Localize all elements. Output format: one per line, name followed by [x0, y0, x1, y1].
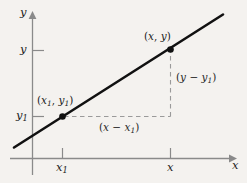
y-axis — [29, 11, 37, 175]
diagram-canvas — [0, 0, 247, 183]
y-tick-label-y-main: y — [20, 42, 27, 56]
y-tick-label-y1-sub: 1 — [23, 113, 28, 123]
paren-close: ) — [167, 30, 171, 42]
y-tick-label-y: y — [20, 44, 27, 56]
paren-close: ) — [135, 121, 139, 133]
y-axis-arrowhead — [29, 11, 37, 19]
x-tick-label-x-main: x — [167, 160, 174, 174]
x-tick-label-x1: x1 — [56, 162, 68, 174]
x-axis — [10, 155, 237, 163]
x-tick-marks — [63, 148, 171, 159]
point-label-x1-y1: (x1, y1) — [37, 95, 73, 107]
y-axis-label: y — [20, 7, 27, 19]
x-tick-label-x: x — [167, 162, 174, 174]
point-label-comma: , — [154, 30, 161, 42]
run-operator: − — [109, 121, 124, 133]
point-label-x-y: (x, y) — [144, 31, 171, 42]
point-marker-x-y — [167, 46, 174, 53]
segment-label-run: (x − x1) — [99, 122, 139, 134]
line-slope-diagram: y x y y1 x1 x (x1, y1) (x, y) (y − y1) (… — [0, 0, 247, 183]
y-tick-label-y1: y1 — [16, 110, 28, 122]
point-marker-x1-y1 — [59, 113, 66, 120]
paren-close: ) — [212, 71, 216, 83]
segment-label-rise: (y − y1) — [176, 72, 216, 84]
x-tick-label-x1-sub: 1 — [63, 165, 68, 175]
rise-operator: − — [186, 71, 201, 83]
point-label-comma: , — [52, 94, 59, 106]
paren-close: ) — [69, 94, 73, 106]
x-axis-label: x — [232, 160, 239, 172]
